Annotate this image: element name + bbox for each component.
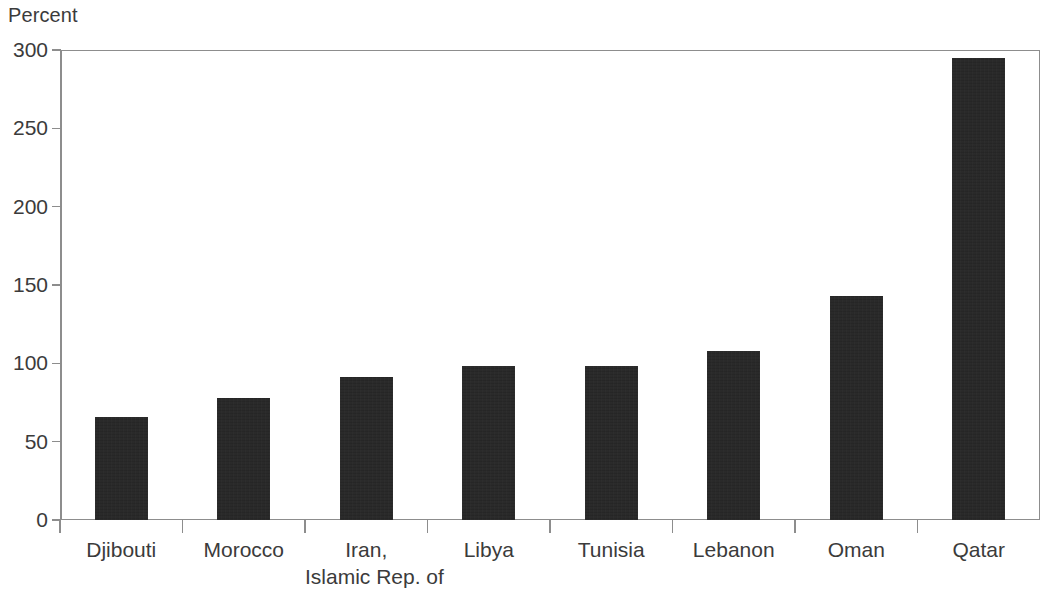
x-axis-tick-label: Qatar [918,536,1041,563]
x-axis-tick [182,520,184,533]
x-axis-origin-tick [59,520,61,533]
x-axis-tick [304,520,306,533]
x-axis-tick-label: Morocco [183,536,306,563]
x-axis-tick-label-line2: Islamic Rep. of [305,563,428,590]
x-axis-tick [427,520,429,533]
bar-series [0,0,1061,615]
bar [217,398,270,520]
bar [952,58,1005,520]
x-axis-tick [794,520,796,533]
x-axis-tick-label: Libya [428,536,551,563]
x-axis-tick [549,520,551,533]
bar [95,417,148,520]
x-axis-tick-label: Oman [795,536,918,563]
bar [585,366,638,520]
bar [707,351,760,520]
x-axis-tick-label: Iran,Islamic Rep. of [305,536,428,590]
x-axis-tick-label: Lebanon [673,536,796,563]
bar-chart: Percent 050100150200250300 DjiboutiMoroc… [0,0,1061,615]
bar [830,296,883,520]
bar [340,377,393,520]
x-axis-tick [672,520,674,533]
x-axis-tick-label: Djibouti [60,536,183,563]
bar [462,366,515,520]
x-axis-tick [917,520,919,533]
x-axis-tick-label: Tunisia [550,536,673,563]
